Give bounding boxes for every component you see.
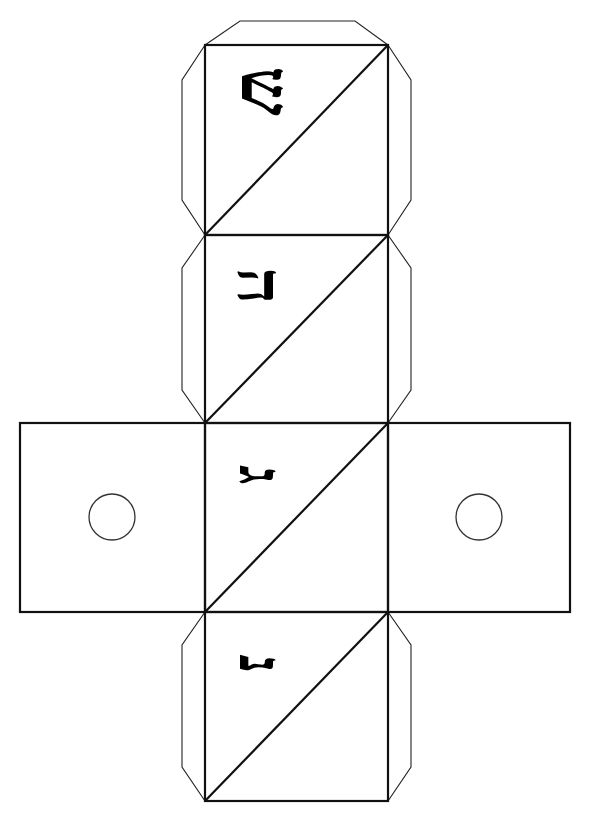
spindle-hole-circle	[89, 494, 135, 540]
letter-nun: נ	[237, 629, 285, 699]
spindle-hole-circle	[456, 494, 502, 540]
tab-nun-right	[388, 612, 411, 801]
face-right	[388, 423, 570, 612]
face-nun	[205, 612, 388, 801]
letter-shin: ש	[231, 51, 301, 131]
face-outline	[20, 423, 205, 612]
fold-diagonal	[205, 612, 388, 801]
fold-diagonal	[205, 423, 388, 612]
tab-top	[205, 21, 388, 45]
letter-hei: ה	[232, 252, 288, 320]
tab-hei-left	[182, 235, 205, 423]
face-outline	[388, 423, 570, 612]
tab-shin-right	[388, 45, 411, 235]
letter-gimel: ג	[238, 440, 284, 510]
tab-nun-left	[182, 612, 205, 801]
cube-faces	[20, 45, 570, 801]
face-left	[20, 423, 205, 612]
tab-shin-left	[182, 45, 205, 235]
tab-hei-right	[388, 235, 411, 423]
face-gimel	[205, 423, 388, 612]
